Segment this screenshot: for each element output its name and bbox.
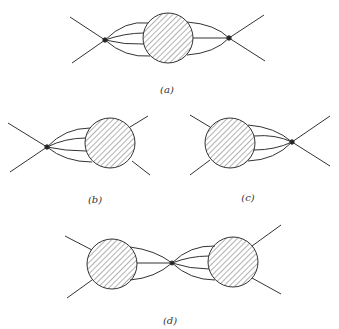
panel-d — [65, 225, 281, 298]
blob-c — [205, 118, 255, 168]
vertex-b — [45, 145, 49, 149]
vertex-a-right — [227, 36, 231, 40]
blob-a — [143, 13, 193, 63]
panel-b — [8, 116, 150, 175]
blob-d-left — [87, 239, 137, 289]
label-b: (b) — [88, 194, 102, 205]
panel-a — [70, 13, 265, 63]
diagram-canvas — [0, 0, 339, 329]
label-d: (d) — [163, 315, 177, 326]
blob-d-right — [208, 237, 258, 287]
vertex-c — [290, 140, 294, 144]
blob-b — [85, 118, 135, 168]
vertex-a-left — [103, 38, 107, 42]
vertex-d — [170, 261, 174, 265]
label-a: (a) — [160, 84, 174, 95]
panel-c — [190, 115, 330, 175]
label-c: (c) — [241, 192, 254, 203]
